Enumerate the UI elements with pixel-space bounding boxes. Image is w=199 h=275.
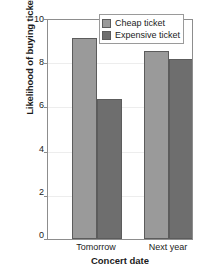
bar-next-year-cheap bbox=[144, 51, 169, 239]
legend-label-cheap: Cheap ticket bbox=[115, 18, 165, 28]
bars-layer bbox=[48, 20, 192, 239]
y-tick-label-4: 4 bbox=[30, 145, 44, 154]
x-tick-label-next-year: Next year bbox=[119, 242, 199, 253]
legend: Cheap ticket Expensive ticket bbox=[99, 14, 184, 44]
legend-label-expensive: Expensive ticket bbox=[115, 30, 180, 40]
legend-swatch-icon-cheap bbox=[102, 19, 111, 28]
bar-tomorrow-cheap bbox=[72, 38, 97, 239]
legend-item-expensive-ticket: Expensive ticket bbox=[102, 29, 180, 41]
y-tick-label-0: 0 bbox=[30, 231, 44, 240]
y-tick-label-8: 8 bbox=[30, 58, 44, 67]
y-tick-label-10: 10 bbox=[30, 15, 44, 24]
y-axis-tick-labels: 10 8 6 4 2 0 bbox=[28, 19, 44, 240]
bar-next-year-expensive bbox=[169, 59, 193, 239]
legend-item-cheap-ticket: Cheap ticket bbox=[102, 17, 180, 29]
y-tick-label-2: 2 bbox=[30, 188, 44, 197]
y-tick-label-6: 6 bbox=[30, 101, 44, 110]
x-axis-title: Concert date bbox=[47, 255, 193, 266]
bar-tomorrow-expensive bbox=[97, 99, 122, 239]
bar-chart: Likelihood of buying ticket 10 8 6 4 2 0… bbox=[0, 0, 199, 275]
plot-area bbox=[47, 19, 193, 240]
legend-swatch-icon-expensive bbox=[102, 31, 111, 40]
